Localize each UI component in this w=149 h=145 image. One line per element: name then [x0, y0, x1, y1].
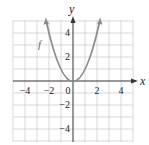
y-tick-label: −4 — [59, 123, 70, 134]
x-tick-labels: −4 −2 0 2 4 — [20, 85, 124, 96]
x-tick-label: −4 — [20, 85, 31, 96]
x-tick-label: 4 — [119, 85, 124, 96]
x-axis-label: x — [139, 74, 146, 88]
y-axis-arrow-icon — [71, 16, 76, 23]
x-axis-arrow-icon — [131, 79, 138, 84]
x-tick-label: 0 — [66, 85, 71, 96]
y-tick-label: 4 — [65, 27, 70, 38]
curve-label-f: f — [38, 38, 43, 50]
x-tick-label: −2 — [44, 85, 55, 96]
chart-canvas: x y −4 −2 0 2 4 4 2 −2 −4 f — [0, 0, 149, 145]
y-axis-label: y — [68, 2, 75, 16]
y-tick-label: 2 — [65, 51, 70, 62]
x-tick-label: 2 — [95, 85, 100, 96]
y-tick-label: −2 — [59, 99, 70, 110]
